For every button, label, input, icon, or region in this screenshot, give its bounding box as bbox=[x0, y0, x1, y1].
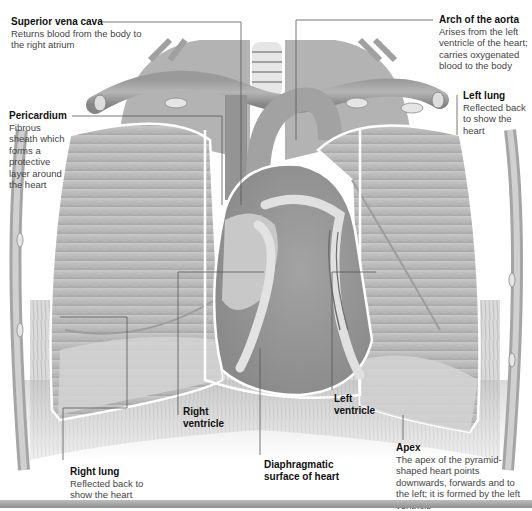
label-title: Right ventricle bbox=[183, 406, 233, 429]
label-desc: Arises from the left ventricle of the he… bbox=[439, 26, 531, 72]
label-desc: Returns blood from the body to the right… bbox=[11, 28, 146, 51]
label-desc: Fibrous sheath which forms a protective … bbox=[9, 122, 71, 191]
bottom-border-bar bbox=[0, 500, 532, 508]
label-left-lung: Left lung Reflected back to show the hea… bbox=[463, 90, 529, 136]
label-diaphragmatic-surface: Diaphragmatic surface of heart bbox=[264, 459, 344, 482]
label-title: Pericardium bbox=[9, 110, 71, 122]
heart bbox=[214, 165, 372, 395]
label-right-ventricle: Right ventricle bbox=[183, 406, 233, 429]
label-pericardium: Pericardium Fibrous sheath which forms a… bbox=[9, 110, 71, 191]
label-desc: Reflected back to show the heart bbox=[70, 478, 160, 501]
label-title: Apex bbox=[396, 442, 530, 454]
label-title: Arch of the aorta bbox=[439, 14, 531, 26]
label-title: Diaphragmatic surface of heart bbox=[264, 459, 344, 482]
label-title: Left ventricle bbox=[334, 393, 379, 416]
label-title: Left lung bbox=[463, 90, 529, 102]
label-arch-of-aorta: Arch of the aorta Arises from the left v… bbox=[439, 14, 531, 72]
label-title: Superior vena cava bbox=[11, 16, 146, 28]
label-desc: Reflected back to show the heart bbox=[463, 102, 529, 137]
label-right-lung: Right lung Reflected back to show the he… bbox=[70, 466, 160, 501]
label-title: Right lung bbox=[70, 466, 160, 478]
label-left-ventricle: Left ventricle bbox=[334, 393, 379, 416]
label-superior-vena-cava: Superior vena cava Returns blood from th… bbox=[11, 16, 146, 51]
